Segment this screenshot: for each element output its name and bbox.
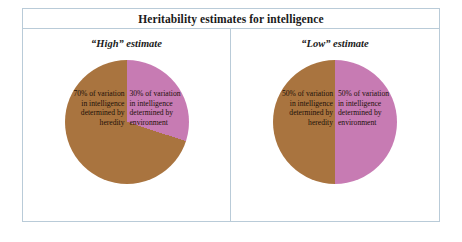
pie-low-environment-label: 50% of variation in intelligence determi… xyxy=(338,89,396,127)
panel-high-heading-row: “High” estimate xyxy=(23,29,230,57)
panel-low-heading: “Low” estimate xyxy=(301,38,368,49)
pie-high-heredity-label: 70% of variation in intelligence determi… xyxy=(67,89,125,127)
panel-high-estimate: “High” estimate 70% of variation in inte… xyxy=(23,29,231,222)
pie-low-heredity-label: 50% of variation in intelligence determi… xyxy=(275,89,333,127)
figure-title-row: Heritability estimates for intelligence xyxy=(23,9,439,29)
pie-chart-high-wrap: 70% of variation in intelligence determi… xyxy=(23,57,230,220)
pie-high-environment-label: 30% of variation in intelligence determi… xyxy=(130,89,188,127)
pie-panels: “High” estimate 70% of variation in inte… xyxy=(23,29,439,222)
pie-chart-low-wrap: 50% of variation in intelligence determi… xyxy=(231,57,439,220)
heritability-figure: Heritability estimates for intelligence … xyxy=(22,8,440,222)
panel-low-estimate: “Low” estimate 50% of variation in intel… xyxy=(231,29,439,222)
panel-low-heading-row: “Low” estimate xyxy=(231,29,439,57)
figure-title: Heritability estimates for intelligence xyxy=(138,13,323,25)
panel-high-heading: “High” estimate xyxy=(91,38,162,49)
